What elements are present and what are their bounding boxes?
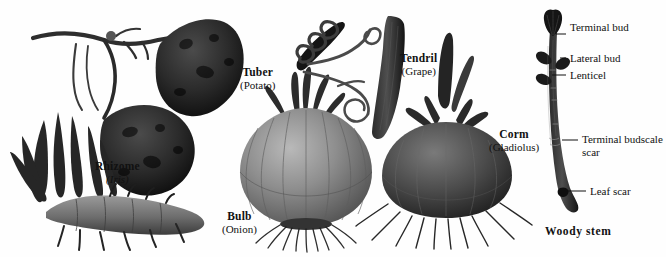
label-bulb-title: Bulb bbox=[222, 210, 257, 223]
specimen-bulb bbox=[240, 67, 372, 252]
label-rhizome-title: Rhizome bbox=[95, 160, 140, 173]
label-tendril: Tendril (Grape) bbox=[400, 52, 437, 77]
label-bulb: Bulb (Onion) bbox=[222, 210, 257, 235]
callout-terminal-budscale-scar: Terminal budscale scar bbox=[582, 133, 666, 158]
callout-leaf-scar: Leaf scar bbox=[590, 185, 631, 198]
label-corm: Corm (Gladiolus) bbox=[489, 128, 539, 153]
specimen-woody-stem bbox=[536, 9, 579, 212]
label-tendril-title: Tendril bbox=[400, 52, 437, 65]
callout-lenticel: Lenticel bbox=[570, 69, 606, 82]
label-tuber-title: Tuber bbox=[240, 66, 275, 79]
label-rhizome-subtitle: (Iris) bbox=[95, 173, 140, 185]
callout-lateral-bud: Lateral bud bbox=[570, 52, 620, 65]
illustration-canvas: Tuber (Potato) Rhizome (Iris) Bulb (Onio… bbox=[0, 0, 666, 257]
label-tendril-subtitle: (Grape) bbox=[400, 65, 437, 77]
label-tuber-subtitle: (Potato) bbox=[240, 79, 275, 91]
botanical-artwork bbox=[0, 0, 666, 257]
label-bulb-subtitle: (Onion) bbox=[222, 223, 257, 235]
label-rhizome: Rhizome (Iris) bbox=[95, 160, 140, 185]
label-woody-stem: Woody stem bbox=[545, 225, 611, 237]
label-tuber: Tuber (Potato) bbox=[240, 66, 275, 91]
callout-terminal-bud: Terminal bud bbox=[570, 21, 629, 34]
label-corm-subtitle: (Gladiolus) bbox=[489, 141, 539, 153]
label-corm-title: Corm bbox=[489, 128, 539, 141]
